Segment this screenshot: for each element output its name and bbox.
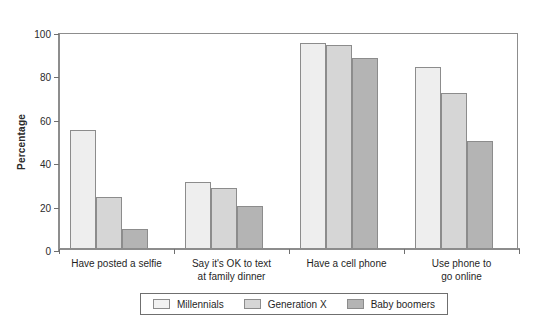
bar	[352, 58, 378, 249]
x-axis-label: Have a cell phone	[282, 257, 412, 270]
bar	[70, 130, 96, 249]
bar	[326, 45, 352, 249]
x-tick-mark	[59, 249, 60, 254]
bar	[211, 188, 237, 249]
y-tick-mark	[54, 77, 59, 78]
y-tick-mark	[54, 34, 59, 35]
legend-swatch	[347, 299, 364, 309]
legend-item[interactable]: Baby boomers	[347, 299, 435, 310]
y-tick-mark	[54, 164, 59, 165]
plot-area: 020406080100 Have posted a selfieSay it'…	[58, 33, 518, 250]
x-axis-label: Say it's OK to text at family dinner	[167, 257, 297, 283]
y-tick-label: 40	[40, 159, 51, 170]
y-axis-title-label: Percentage	[16, 114, 27, 170]
bar	[122, 229, 148, 249]
legend-item[interactable]: Generation X	[244, 299, 327, 310]
y-tick-label: 100	[34, 29, 51, 40]
legend: MillennialsGeneration XBaby boomers	[140, 293, 448, 315]
y-tick-label: 60	[40, 115, 51, 126]
x-tick-mark	[289, 249, 290, 254]
x-tick-mark	[404, 249, 405, 254]
legend-label: Baby boomers	[371, 299, 435, 310]
legend-swatch	[153, 299, 170, 309]
legend-label: Generation X	[268, 299, 327, 310]
bar	[96, 197, 122, 249]
y-tick-mark	[54, 121, 59, 122]
y-tick-label: 0	[45, 246, 51, 257]
bar	[467, 141, 493, 250]
x-axis-label: Have posted a selfie	[52, 257, 182, 270]
bar	[185, 182, 211, 249]
bar-chart: Percentage 020406080100 Have posted a se…	[0, 0, 533, 327]
y-axis-title: Percentage	[14, 33, 28, 250]
bar	[441, 93, 467, 249]
y-tick-mark	[54, 208, 59, 209]
y-tick-label: 80	[40, 72, 51, 83]
x-axis-label: Use phone to go online	[397, 257, 527, 283]
bar	[415, 67, 441, 249]
legend-label: Millennials	[177, 299, 224, 310]
x-tick-mark	[174, 249, 175, 254]
legend-swatch	[244, 299, 261, 309]
legend-item[interactable]: Millennials	[153, 299, 224, 310]
x-tick-mark	[519, 249, 520, 254]
bar	[300, 43, 326, 249]
bar	[237, 206, 263, 249]
y-tick-label: 20	[40, 202, 51, 213]
y-axis-line	[58, 33, 60, 252]
